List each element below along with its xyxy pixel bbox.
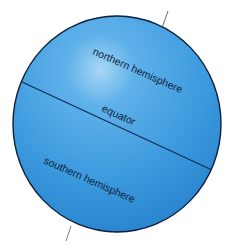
globe: [13, 16, 221, 232]
rotation-axis-north: [162, 11, 168, 28]
globe-diagram: northern hemisphere equator southern hem…: [0, 0, 228, 252]
rotation-axis-south: [66, 226, 71, 241]
